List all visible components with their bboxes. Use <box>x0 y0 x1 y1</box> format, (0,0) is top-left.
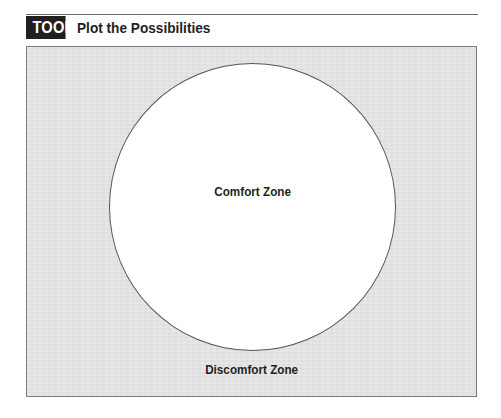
comfort-zone-text: Comfort Zone <box>214 184 291 199</box>
tool-badge: TOOL <box>26 16 66 39</box>
tool-page: TOOL Plot the Possibilities Comfort Zone… <box>0 0 501 418</box>
tool-header: TOOL Plot the Possibilities <box>26 16 229 39</box>
comfort-zone-label: Comfort Zone <box>110 184 395 199</box>
tool-title: Plot the Possibilities <box>77 16 210 39</box>
comfort-zone-circle: Comfort Zone <box>109 63 396 351</box>
discomfort-zone-text: Discomfort Zone <box>205 362 298 377</box>
top-divider <box>26 14 478 15</box>
discomfort-zone-label: Discomfort Zone <box>27 362 476 377</box>
discomfort-zone-area: Comfort Zone Discomfort Zone <box>26 46 477 397</box>
